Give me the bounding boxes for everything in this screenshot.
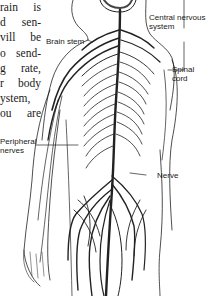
nervous-system-illustration [0, 0, 211, 296]
label-brain-stem: Brain stem [46, 37, 84, 46]
label-central-nervous-system-line1: Central nervous [149, 13, 205, 22]
label-spinal-cord-line1: Spinal [172, 65, 194, 74]
nervous-system-figure: Brain stem Central nervous system Spinal… [0, 0, 211, 296]
label-central-nervous-system-line2: system [149, 22, 174, 31]
label-peripheral-nerves-line1: Peripheral [0, 137, 36, 146]
document-page: rain is d sen- vill be o send- g rate, r… [0, 0, 211, 296]
label-peripheral-nerves-line2: nerves [0, 146, 24, 155]
label-nerve: Nerve [157, 171, 178, 180]
label-spinal-cord-line2: cord [172, 74, 188, 83]
